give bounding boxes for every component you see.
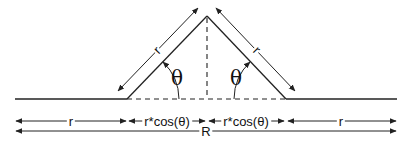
row1-label-rcos-right: r*cos(θ) bbox=[221, 115, 271, 128]
left-diagonal bbox=[127, 16, 207, 99]
row2-label-R: R bbox=[199, 125, 212, 138]
row1-label-r-left: r bbox=[67, 115, 75, 128]
right-diagonal bbox=[207, 16, 286, 99]
diagram-canvas bbox=[0, 0, 412, 143]
row1-label-rcos-left: r*cos(θ) bbox=[142, 115, 192, 128]
right-angle-label: θ bbox=[230, 68, 242, 88]
left-angle-label: θ bbox=[171, 68, 183, 88]
row1-label-r-right: r bbox=[337, 115, 345, 128]
